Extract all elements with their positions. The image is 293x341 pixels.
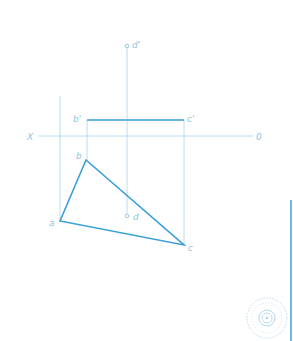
label-d: d xyxy=(133,212,139,222)
point-d xyxy=(125,214,129,218)
axis-label-0: 0 xyxy=(256,132,262,142)
seal-logo-icon xyxy=(247,298,287,338)
triangle-abc xyxy=(60,160,184,245)
projection-diagram: X 0 d' b' c' b a c d xyxy=(0,0,293,341)
label-d-prime: d' xyxy=(132,40,140,50)
label-a: a xyxy=(49,218,55,228)
label-c: c xyxy=(188,243,193,253)
label-b: b xyxy=(76,151,82,161)
point-d-prime xyxy=(125,44,129,48)
label-b-prime: b' xyxy=(73,114,81,124)
label-c-prime: c' xyxy=(187,114,194,124)
axis-label-x: X xyxy=(26,132,34,142)
